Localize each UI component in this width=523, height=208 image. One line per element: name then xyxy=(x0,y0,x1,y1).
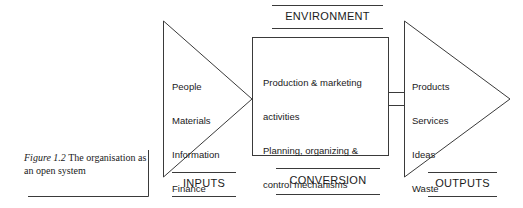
figure-caption: Figure 1.2 The organisation as an open s… xyxy=(24,152,152,177)
figure-diagram-root: Figure 1.2 The organisation as an open s… xyxy=(0,0,523,208)
inputs-label: INPUTS xyxy=(172,177,236,189)
outputs-label: OUTPUTS xyxy=(428,177,497,189)
list-item: Production & marketing xyxy=(263,77,370,88)
list-item: People xyxy=(172,81,220,92)
figure-number: Figure 1.2 xyxy=(24,152,66,163)
list-item: Information xyxy=(172,149,220,160)
list-item: activities xyxy=(263,111,370,122)
list-item: Planning, organizing & xyxy=(263,145,370,156)
conversion-label: CONVERSION xyxy=(276,174,380,186)
environment-label: ENVIRONMENT xyxy=(272,10,383,22)
list-item: Products xyxy=(412,81,450,92)
list-item: Services xyxy=(412,115,450,126)
list-item: Ideas xyxy=(412,149,450,160)
list-item: Materials xyxy=(172,115,220,126)
